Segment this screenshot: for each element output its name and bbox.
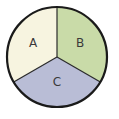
sector-diagram: A B C [0, 0, 119, 119]
label-a: A [29, 36, 38, 50]
label-b: B [76, 36, 84, 50]
label-c: C [53, 75, 61, 89]
